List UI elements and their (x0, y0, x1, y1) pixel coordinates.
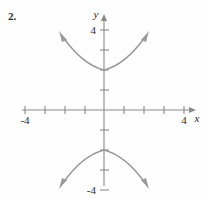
x-tick-label--4: -4 (20, 114, 30, 126)
lower-branch-right-arrowhead (141, 178, 149, 189)
upper-branch-left-arrowhead (59, 31, 67, 42)
upper-branch-right-arrowhead (141, 31, 149, 42)
figure-container: 2. y x (0, 0, 206, 198)
y-axis-arrowhead (101, 14, 107, 21)
y-tick-label-4: 4 (91, 24, 97, 36)
y-tick-label--4: -4 (87, 184, 97, 196)
x-tick-label-4: 4 (181, 114, 187, 126)
y-axis-label: y (93, 8, 99, 20)
coordinate-graph: y x 4 -4 -4 4 (0, 0, 206, 198)
lower-branch-left-arrowhead (59, 178, 67, 189)
x-axis-label: x (194, 112, 200, 124)
